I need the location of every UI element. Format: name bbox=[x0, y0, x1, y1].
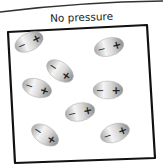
positive-charge-icon: + bbox=[111, 84, 120, 97]
dipole-molecule: −+ bbox=[93, 81, 123, 99]
negative-charge-icon: − bbox=[96, 85, 104, 96]
diagram-canvas: −+−+−+−+−+−+−+−+ bbox=[0, 0, 163, 168]
